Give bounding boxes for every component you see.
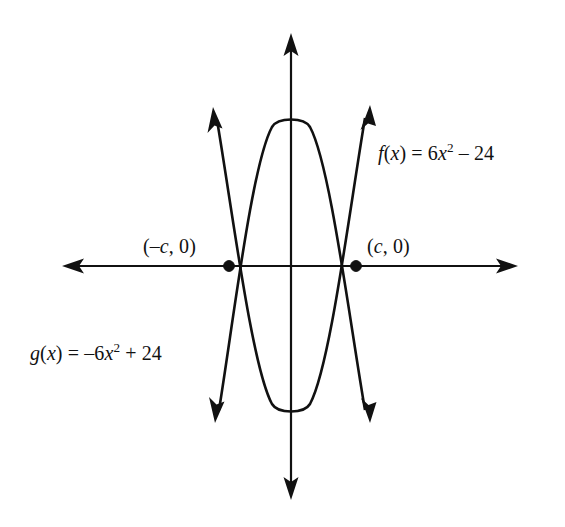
label-point-minus-c-y: 0 [179, 235, 189, 257]
label-point-minus-c-x: –c [150, 235, 169, 257]
label-f-exponent: 2 [447, 140, 454, 155]
label-g-constant: 24 [142, 342, 162, 364]
label-point-c-y: 0 [393, 235, 403, 257]
point-marker-minus-c [224, 261, 235, 272]
label-f-coefficient: 6 [428, 142, 438, 164]
label-point-c: (c, 0) [367, 235, 410, 258]
label-f-variable: x [438, 142, 447, 164]
label-point-c-comma: , [383, 235, 393, 257]
label-g-paren-open: ( [40, 342, 47, 364]
label-f-equation: f(x) = 6x2 – 24 [378, 142, 494, 165]
label-g-paren-close: ) [56, 342, 63, 364]
label-g-equation: g(x) = –6x2 + 24 [30, 342, 162, 365]
label-point-c-x: c [374, 235, 383, 257]
label-g-name: g [30, 342, 40, 364]
curve-g-left-arrowhead [209, 397, 225, 423]
label-f-equals: = [411, 142, 422, 164]
label-g-argument: x [47, 342, 56, 364]
label-g-equals: = [68, 342, 79, 364]
label-point-c-close: ) [403, 235, 410, 257]
curve-g [209, 120, 377, 424]
curve-f-right-arrowhead [361, 105, 377, 130]
label-g-sign: + [125, 342, 136, 364]
label-point-minus-c-close: ) [189, 235, 196, 257]
label-point-minus-c: (–c, 0) [143, 235, 196, 258]
label-point-minus-c-comma: , [169, 235, 179, 257]
quadratic-functions-figure [0, 0, 565, 527]
label-g-exponent: 2 [113, 340, 120, 355]
label-f-sign: – [459, 142, 469, 164]
label-point-c-open: ( [367, 235, 374, 257]
label-point-minus-c-open: ( [143, 235, 150, 257]
label-f-paren-close: ) [399, 142, 406, 164]
point-marker-c [351, 261, 362, 272]
label-f-constant: 24 [474, 142, 494, 164]
curve-g-right-arrowhead [361, 398, 377, 423]
curve-f-left-arrowhead [208, 107, 223, 133]
label-g-coefficient: –6 [84, 342, 104, 364]
